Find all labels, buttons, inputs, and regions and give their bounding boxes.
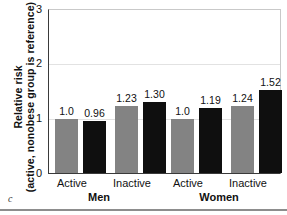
gridline-2 xyxy=(49,64,280,65)
group-label-women: Women xyxy=(188,191,250,203)
x-tick-men-active: Active xyxy=(47,177,97,189)
bar-women-inactive-obese xyxy=(259,90,282,173)
bar-men-active-nonobese xyxy=(55,119,78,173)
y-tick-2: 2 xyxy=(28,58,42,69)
value-label-women-active-nonobese: 1.0 xyxy=(166,106,199,117)
group-label-men: Men xyxy=(71,191,127,203)
bar-men-active-obese xyxy=(83,121,106,173)
x-tick-men-inactive: Inactive xyxy=(104,177,160,189)
bar-women-inactive-nonobese xyxy=(231,106,254,173)
figure-panel-c: Relative risk (active, nonobese group is… xyxy=(0,0,287,215)
bar-men-inactive-obese xyxy=(143,102,166,173)
bar-women-active-nonobese xyxy=(171,119,194,173)
y-tick-3: 3 xyxy=(28,4,42,15)
y-axis-title-line1: Relative risk xyxy=(12,65,25,128)
value-label-men-inactive-obese: 1.30 xyxy=(138,89,171,100)
x-tick-women-active: Active xyxy=(163,177,213,189)
y-tick-1: 1 xyxy=(28,113,42,124)
value-label-women-active-obese: 1.19 xyxy=(194,95,227,106)
value-label-women-inactive-nonobese: 1.24 xyxy=(226,93,259,104)
bar-women-active-obese xyxy=(199,108,222,173)
y-axis-tick-labels: 3 2 1 0 xyxy=(26,0,42,215)
panel-letter: c xyxy=(8,193,12,204)
x-tick-women-inactive: Inactive xyxy=(220,177,276,189)
value-label-men-active-obese: 0.96 xyxy=(78,108,111,119)
y-tick-0: 0 xyxy=(28,168,42,179)
value-label-women-inactive-obese: 1.52 xyxy=(254,77,287,88)
bottom-rule xyxy=(0,209,287,211)
bar-men-inactive-nonobese xyxy=(115,106,138,173)
plot-area: 1.0 0.96 1.23 1.30 1.0 1.19 1.24 1.52 xyxy=(48,9,281,174)
